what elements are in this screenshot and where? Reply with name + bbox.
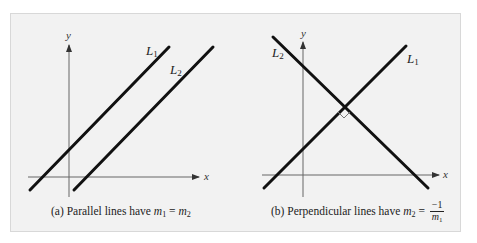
- caption-var: m: [178, 205, 186, 217]
- panel-a-x-label: x: [204, 171, 209, 182]
- panel-b-line-L2: [273, 37, 428, 188]
- panel-b-line-L1: [264, 46, 406, 188]
- fraction-denominator: m1: [432, 212, 443, 224]
- line-subscript: 2: [279, 51, 284, 61]
- line-subscript: 1: [414, 57, 419, 67]
- caption-sub: 2: [187, 210, 191, 219]
- caption-var: m: [403, 205, 411, 217]
- panel-a-L2-label: L2: [170, 63, 182, 78]
- panel-b-caption: (b) Perpendicular lines have m2 = −1m1: [271, 201, 444, 225]
- panel-b-x-label: x: [443, 169, 448, 180]
- fraction-den-var: m: [432, 211, 439, 222]
- panel-a-line-L2: [74, 47, 213, 190]
- fraction-den-sub: 1: [439, 215, 443, 223]
- panel-a-y-label: y: [66, 30, 71, 41]
- panel-b-L1-label: L1: [407, 52, 419, 67]
- panel-b-y-label: y: [301, 28, 306, 39]
- panel-a-L1-label: L1: [146, 44, 158, 59]
- caption-var: m: [154, 205, 162, 217]
- panel-a-line-L1: [30, 47, 169, 190]
- caption-equals: =: [416, 205, 428, 217]
- caption-text: (a) Parallel lines have: [51, 205, 154, 217]
- line-subscript: 1: [153, 49, 158, 59]
- line-subscript: 2: [177, 68, 182, 78]
- panel-a-caption: (a) Parallel lines have m1 = m2: [51, 206, 191, 219]
- panel-a-plot: [28, 45, 213, 197]
- caption-text: (b) Perpendicular lines have: [271, 205, 403, 217]
- caption-equals: =: [166, 205, 178, 217]
- caption-fraction: −1m1: [430, 200, 445, 224]
- panel-b-L2-label: L2: [272, 46, 284, 61]
